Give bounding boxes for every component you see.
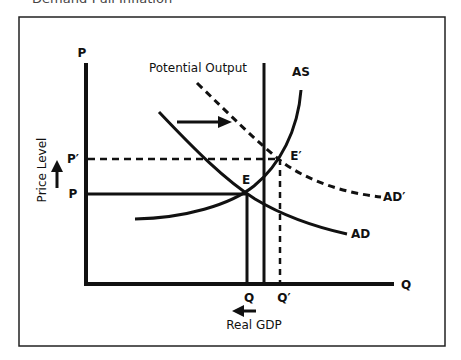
price-up-arrow-icon <box>51 160 63 188</box>
ad-shift-arrow-icon <box>177 116 232 128</box>
q-label: Q <box>244 291 254 305</box>
ad-curve <box>159 112 347 234</box>
y-axis-title: Price Level <box>35 138 49 203</box>
x-axis-title: Real GDP <box>226 318 281 332</box>
q-prime-label: Q′ <box>277 291 290 305</box>
as-curve <box>135 90 301 219</box>
ad-label: AD <box>351 227 370 241</box>
e-prime-label: E′ <box>290 149 301 163</box>
y-axis-label: P <box>78 46 87 60</box>
as-label: AS <box>292 65 310 79</box>
demand-pull-inflation-diagram: P Q Price Level P′ P AS AD AD′ Potential… <box>0 0 461 360</box>
ad-prime-label: AD′ <box>383 190 405 204</box>
real-gdp-left-arrow-icon <box>232 305 256 317</box>
potential-output-label: Potential Output <box>149 61 247 75</box>
p-prime-label: P′ <box>67 152 79 166</box>
e-label: E <box>242 173 250 187</box>
p-label: P <box>69 187 78 201</box>
x-axis-label: Q <box>401 278 411 292</box>
